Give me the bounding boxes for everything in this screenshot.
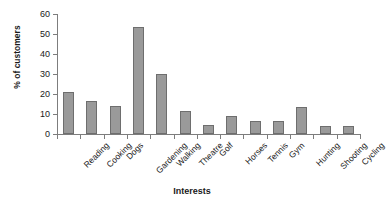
y-tick-label: 50: [20, 30, 50, 39]
bar: [63, 92, 74, 134]
x-tick-mark: [267, 135, 268, 139]
y-tick-label: 30: [20, 70, 50, 79]
x-tick-mark: [313, 135, 314, 139]
x-tick-mark: [360, 135, 361, 139]
bar: [86, 101, 97, 134]
y-tick-label: 20: [20, 90, 50, 99]
x-tick-mark: [80, 135, 81, 139]
bar: [273, 121, 284, 134]
bar: [203, 125, 214, 134]
y-tick-label: 0: [20, 130, 50, 139]
x-tick-mark: [127, 135, 128, 139]
bar: [296, 107, 307, 134]
bar: [250, 121, 261, 134]
bar: [133, 27, 144, 134]
bar: [110, 106, 121, 134]
x-axis-line: [57, 134, 361, 135]
bar: [320, 126, 331, 134]
bar: [156, 74, 167, 134]
x-tick-label: Horses: [244, 141, 269, 166]
bar: [226, 116, 237, 134]
x-tick-mark: [174, 135, 175, 139]
bar: [180, 111, 191, 134]
x-tick-label: Reading: [82, 141, 111, 170]
y-tick-label: 40: [20, 50, 50, 59]
x-tick-mark: [243, 135, 244, 139]
x-tick-mark: [150, 135, 151, 139]
x-tick-mark: [197, 135, 198, 139]
x-tick-mark: [57, 135, 58, 139]
x-tick-mark: [290, 135, 291, 139]
bar: [343, 126, 354, 134]
x-axis-title: Interests: [0, 186, 384, 196]
x-tick-mark: [337, 135, 338, 139]
x-tick-mark: [104, 135, 105, 139]
y-tick-label: 60: [20, 10, 50, 19]
y-tick-label: 10: [20, 110, 50, 119]
x-tick-mark: [220, 135, 221, 139]
plot-area: [57, 14, 360, 134]
x-tick-label: Gym: [288, 141, 307, 160]
